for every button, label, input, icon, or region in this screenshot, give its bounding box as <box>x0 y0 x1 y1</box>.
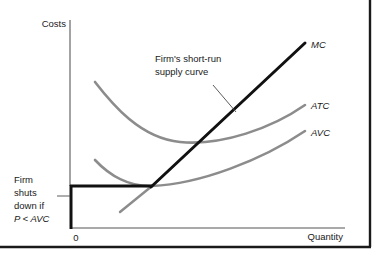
mc-curve-supply-segment <box>151 43 305 187</box>
origin-label: 0 <box>73 232 78 243</box>
supply-callout-line1: Firm's short-run <box>155 53 221 64</box>
supply-callout-leader <box>213 85 236 112</box>
shutdown-note-line3: down if <box>14 200 44 211</box>
supply-callout-line2: supply curve <box>155 66 208 77</box>
avc-curve-label: AVC <box>310 127 330 138</box>
mc-curve-lower-tail <box>120 186 152 212</box>
cost-curve-figure: Costs Quantity 0 MC ATC AVC Firm's short… <box>0 0 373 262</box>
y-axis-label: Costs <box>42 18 67 29</box>
x-axis-label: Quantity <box>308 231 344 242</box>
mc-curve-label: MC <box>311 39 326 50</box>
atc-curve-label: ATC <box>310 100 329 111</box>
shutdown-note-line4: P < AVC <box>14 213 50 224</box>
cost-curve-chart: Costs Quantity 0 MC ATC AVC Firm's short… <box>0 0 373 262</box>
shutdown-note-line2: shuts <box>14 187 37 198</box>
shutdown-note-line1: Firm <box>14 174 33 185</box>
atc-curve <box>95 82 305 143</box>
